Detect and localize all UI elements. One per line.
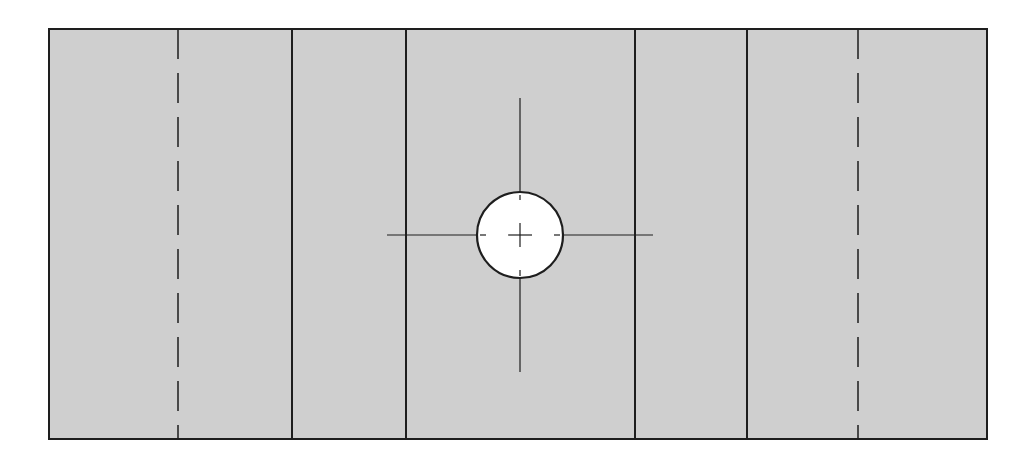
technical-drawing: [0, 0, 1036, 468]
